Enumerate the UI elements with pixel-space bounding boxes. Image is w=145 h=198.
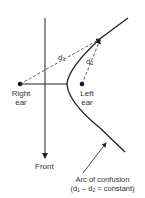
left-ear-label-line1: Left [76,89,98,98]
arc-caption: Arc of confusion (d1 – d2 = constant) [60,175,145,195]
arc-of-confusion-curve [67,18,128,152]
caption-close: = constant) [95,184,134,193]
left-ear-label-line2: ear [76,98,98,107]
caption-mid: – d [80,184,93,193]
right-ear-label: Right ear [8,89,34,107]
right-ear-label-line2: ear [8,98,34,107]
d1-label: d1 [58,53,65,64]
d2-subscript: 2 [90,60,93,66]
d2-label: d2 [86,57,93,68]
caption-line1: Arc of confusion [60,175,145,184]
d1-subscript: 1 [62,56,65,62]
right-ear-label-line1: Right [8,89,34,98]
left-ear-label: Left ear [76,89,98,107]
caption-line2: (d1 – d2 = constant) [60,184,145,195]
caption-pointer-arrow [83,143,106,173]
front-label: Front [35,162,54,171]
